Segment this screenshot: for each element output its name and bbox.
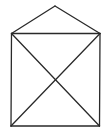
edge-top_left-bottom_left [11,34,12,127]
edge-apex-top_right [55,6,100,34]
edge-apex-top_left [12,6,56,34]
house-diagram [0,0,107,134]
edge-top_right-bottom_right [100,34,101,127]
